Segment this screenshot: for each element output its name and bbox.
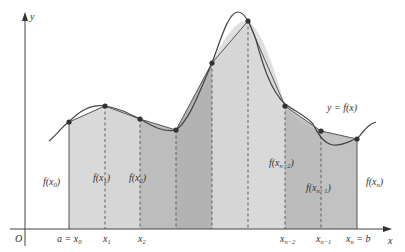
value-label-fx0: f(x0): [43, 176, 61, 188]
y-axis-arrow-icon: [22, 12, 28, 21]
strip-0: [69, 106, 105, 229]
tick-label-a: a = x0: [57, 233, 82, 245]
y-axis-label: y: [29, 11, 35, 22]
value-label-fx1: f(x1): [93, 172, 111, 184]
value-label-fxn: f(xn): [366, 176, 384, 188]
tick-label-xn-2: xn−2: [279, 233, 296, 245]
tick-label-b: xn = b: [345, 233, 370, 245]
origin-label: O: [15, 233, 22, 244]
strip-1: [105, 106, 140, 229]
tick-label-x1: x1: [102, 233, 111, 245]
x-axis-label: x: [387, 235, 393, 246]
value-label-fx2: f(x2): [129, 172, 147, 184]
tick-label-xn-1: xn−1: [315, 233, 331, 245]
curve-label: y = f(x): [326, 102, 358, 114]
tick-label-x2: x2: [137, 233, 146, 245]
x-axis-arrow-icon: [383, 226, 392, 232]
strip-7: [321, 131, 357, 229]
strip-3: [176, 63, 212, 229]
riemann-sum-diagram: y x O y = f(x) a = x0 x1 x2 xn−2 xn−1 xn…: [0, 0, 405, 252]
